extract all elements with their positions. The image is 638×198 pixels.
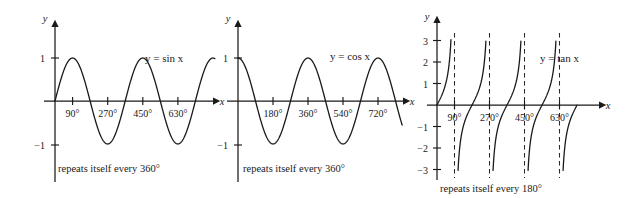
panel-sine: y x 1 −1 90° 270° 450° 630° y = sin x re… <box>34 13 224 182</box>
sine-xtick-label-630: 630° <box>168 108 187 119</box>
tangent-ytick-label-2: 2 <box>423 57 428 68</box>
cosine-xtick-label-180: 180° <box>264 108 283 119</box>
sine-ytick-label-neg1: −1 <box>34 140 45 151</box>
tangent-branch-2 <box>493 41 521 170</box>
cosine-ytick-label-1: 1 <box>223 53 228 64</box>
sine-x-axis-label: x <box>219 96 225 107</box>
sine-xtick-label-270: 270° <box>98 108 117 119</box>
tangent-ytick-label-1: 1 <box>423 79 428 90</box>
sine-ytick-label-1: 1 <box>40 53 45 64</box>
tangent-xtick-label-270: 270° <box>480 112 499 123</box>
cosine-x-axis-label: x <box>409 96 415 107</box>
tangent-ytick-label-neg3: −3 <box>417 165 428 176</box>
cosine-caption: repeats itself every 360° <box>243 163 345 174</box>
sine-caption: repeats itself every 360° <box>58 163 160 174</box>
sine-equation-label: y = sin x <box>145 52 184 64</box>
tangent-x-axis-label: x <box>605 100 611 111</box>
tangent-ytick-label-3: 3 <box>423 36 428 47</box>
tangent-ytick-label-neg2: −2 <box>417 143 428 154</box>
tangent-branch-0 <box>437 40 451 105</box>
cosine-xtick-label-720: 720° <box>369 108 388 119</box>
tangent-branch-1 <box>458 41 486 170</box>
cosine-ytick-label-neg1: −1 <box>217 140 228 151</box>
cosine-equation-label: y = cos x <box>330 50 371 62</box>
sine-xtick-label-90: 90° <box>66 108 80 119</box>
tangent-xtick-label-90: 90° <box>448 112 462 123</box>
trig-graphs-figure: y x 1 −1 90° 270° 450° 630° y = sin x re… <box>0 0 638 198</box>
sine-xtick-label-450: 450° <box>133 108 152 119</box>
figure-canvas: y x 1 −1 90° 270° 450° 630° y = sin x re… <box>0 0 638 198</box>
panel-tangent: y x 3 2 1 −1 −2 −3 90° 270° 450° 630° y … <box>417 11 610 194</box>
cosine-xtick-label-360: 360° <box>299 108 318 119</box>
tangent-xtick-label-450: 450° <box>515 112 534 123</box>
cosine-xtick-label-540: 540° <box>334 108 353 119</box>
tangent-y-axis-label: y <box>424 11 430 22</box>
tangent-equation-label: y = tan x <box>540 52 579 64</box>
panel-cosine: y x 1 −1 180° 360° 540° 720° y = cos x r… <box>217 13 414 182</box>
tangent-ytick-label-neg1: −1 <box>417 122 428 133</box>
tangent-caption: repeats itself every 180° <box>440 183 542 194</box>
tangent-xtick-label-630: 630° <box>550 112 569 123</box>
sine-y-axis-label: y <box>42 13 48 24</box>
cosine-y-axis-label: y <box>225 13 231 24</box>
